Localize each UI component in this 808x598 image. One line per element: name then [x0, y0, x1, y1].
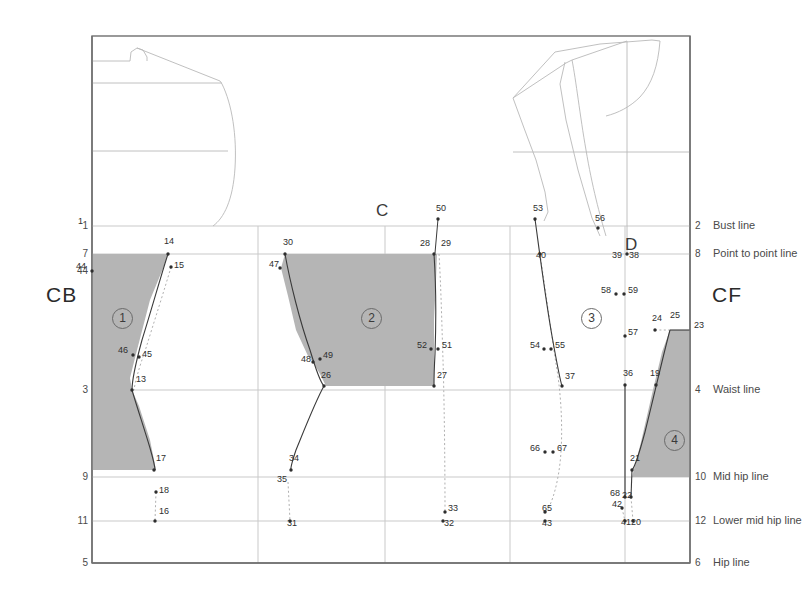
point-label-50: 50	[436, 203, 446, 213]
point-dot-59	[622, 292, 625, 295]
point-label-29: 29	[441, 238, 451, 248]
point-label-24: 24	[652, 313, 662, 323]
point-label-59: 59	[628, 285, 638, 295]
point-label-66: 66	[530, 443, 540, 453]
point-label-52: 52	[417, 340, 427, 350]
point-dot-28	[432, 252, 435, 255]
point-label-36: 36	[623, 368, 633, 378]
garment-outline-1	[137, 48, 222, 84]
point-label-32: 32	[444, 518, 454, 528]
row-right-number-6: 6	[695, 557, 701, 568]
point-label-68: 68	[610, 488, 620, 498]
point-label-38: 38	[629, 250, 639, 260]
garment-outline-10	[560, 62, 600, 236]
point-dot-52	[429, 347, 432, 350]
garment-outline-5	[513, 40, 660, 98]
point-label-43: 43	[542, 518, 552, 528]
point-dot-46	[131, 353, 134, 356]
row-right-number-8: 8	[695, 248, 701, 259]
point-label-15: 15	[174, 260, 184, 270]
point-label-20: 20	[631, 517, 641, 527]
point-label-42: 42	[612, 499, 622, 509]
point-label-17: 17	[156, 453, 166, 463]
piece-edge-5	[535, 219, 562, 386]
dotted-guide-2	[288, 482, 290, 521]
piece-number-2: 2	[361, 308, 382, 329]
point-dot-67	[551, 450, 554, 453]
row-right-number-4: 4	[695, 384, 701, 395]
pattern-piece-2	[281, 254, 437, 386]
point-label-47: 47	[269, 259, 279, 269]
point-dot-21	[630, 468, 633, 471]
point-dot-34	[289, 468, 292, 471]
point-label-57: 57	[628, 327, 638, 337]
point-dot-26	[322, 384, 325, 387]
point-label-21: 21	[630, 453, 640, 463]
row-label-mid-hip-line: Mid hip line	[713, 470, 769, 482]
row-right-number-12: 12	[695, 515, 706, 526]
garment-outline-3	[213, 84, 235, 226]
point-label-51: 51	[442, 340, 452, 350]
dotted-guide-4	[540, 254, 562, 512]
row-left-number-7: 7	[66, 248, 88, 259]
point-dot-36	[623, 383, 626, 386]
point-label-19: 19	[650, 368, 660, 378]
center-back-label: CB	[46, 283, 77, 307]
point-dot-57	[623, 334, 626, 337]
point-dot-16	[153, 519, 156, 522]
point-dot-49	[318, 357, 321, 360]
point-label-28: 28	[420, 238, 430, 248]
point-dot-37	[560, 384, 563, 387]
row-left-number-1: 1	[66, 220, 88, 231]
point-label-55: 55	[555, 340, 565, 350]
point-dot-15	[169, 265, 172, 268]
point-label-16: 16	[159, 506, 169, 516]
point-label-26: 26	[321, 370, 331, 380]
piece-number-3: 3	[581, 308, 602, 329]
piece-number-4: 4	[664, 430, 685, 451]
point-dot-27	[432, 384, 435, 387]
point-label-25: 25	[670, 310, 680, 320]
point-dot-55	[549, 347, 552, 350]
point-label-44: 44	[76, 261, 86, 271]
point-label-33: 33	[448, 503, 458, 513]
point-dot-44	[90, 269, 93, 272]
point-dot-51	[436, 347, 439, 350]
point-label-27: 27	[437, 370, 447, 380]
row-label-waist-line: Waist line	[713, 383, 760, 395]
pattern-piece-1	[92, 254, 168, 470]
point-label-1: 1	[78, 216, 83, 226]
point-dot-45	[137, 355, 140, 358]
point-label-58: 58	[601, 285, 611, 295]
point-dot-14	[166, 252, 169, 255]
point-dot-18	[154, 490, 157, 493]
point-label-34: 34	[289, 453, 299, 463]
point-label-46: 46	[118, 345, 128, 355]
point-label-30: 30	[283, 237, 293, 247]
row-label-lower-mid-hip-line: Lower mid hip line	[713, 514, 802, 526]
row-left-number-11: 11	[66, 515, 88, 526]
pattern-diagram-canvas: CB CF C D 12Bust line78Point to point li…	[0, 0, 808, 598]
point-label-56: 56	[595, 213, 605, 223]
row-right-number-2: 2	[695, 220, 701, 231]
point-label-67: 67	[557, 443, 567, 453]
point-label-37: 37	[565, 371, 575, 381]
point-dot-66	[543, 450, 546, 453]
point-dot-48	[311, 360, 314, 363]
point-dot-13	[130, 388, 133, 391]
point-label-18: 18	[159, 485, 169, 495]
point-label-39: 39	[612, 250, 622, 260]
connector-0	[435, 219, 438, 253]
garment-outline-9	[572, 60, 606, 236]
point-dot-50	[436, 217, 439, 220]
row-left-number-9: 9	[66, 471, 88, 482]
point-label-31: 31	[287, 518, 297, 528]
point-dot-54	[542, 347, 545, 350]
point-label-45: 45	[142, 349, 152, 359]
row-right-number-10: 10	[695, 471, 706, 482]
garment-outline-7	[606, 41, 660, 116]
pattern-drawing	[0, 0, 808, 598]
point-label-40: 40	[536, 250, 546, 260]
point-label-23: 23	[694, 320, 704, 330]
point-label-22: 22	[622, 490, 632, 500]
